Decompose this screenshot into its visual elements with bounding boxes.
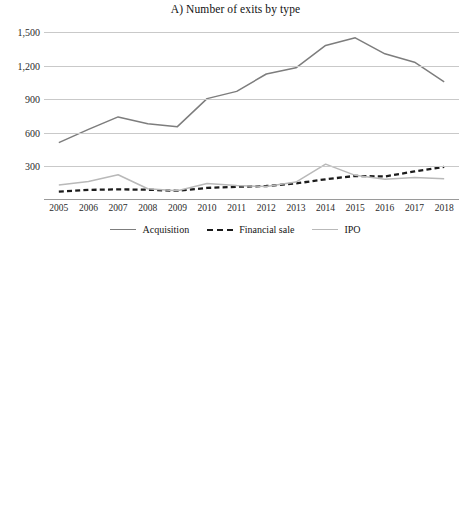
legend-item[interactable]: Acquisition [110, 224, 189, 235]
legend-line-swatch-icon [312, 229, 338, 230]
panel-a-y-axis: 3006009001,2001,500 [0, 32, 40, 200]
x-axis-tick-label: 2017 [400, 203, 430, 213]
x-axis-tick-label: 2007 [103, 203, 133, 213]
panel-a-x-axis-labels: 2005200620072008200920102011201220132014… [44, 203, 459, 213]
legend-line-swatch-icon [110, 229, 136, 230]
figure-root: A) Number of exits by type 3006009001,20… [0, 0, 471, 512]
x-axis-tick-label: 2012 [251, 203, 281, 213]
x-axis-tick-label: 2006 [74, 203, 104, 213]
gridline [44, 99, 459, 100]
panel-a-plot-area [44, 32, 459, 200]
y-axis-tick-label: 1,500 [18, 27, 41, 38]
panel-b-value-of-exits: B) Value of exits by type 30801301802302… [0, 256, 471, 512]
x-axis-tick-label: 2014 [311, 203, 341, 213]
panel-a-lines [44, 32, 459, 200]
x-axis-tick-label: 2011 [222, 203, 252, 213]
x-axis-tick-label: 2010 [192, 203, 222, 213]
legend-line-swatch-icon [207, 229, 233, 231]
x-axis-tick-label: 2009 [163, 203, 193, 213]
gridline [44, 166, 459, 167]
y-axis-tick-label: 1,200 [18, 60, 41, 71]
x-axis-tick-label: 2018 [429, 203, 459, 213]
legend-label: Acquisition [142, 224, 189, 235]
x-axis-tick-label: 2016 [370, 203, 400, 213]
panel-a-number-of-exits: A) Number of exits by type 3006009001,20… [0, 0, 471, 250]
legend-label: IPO [344, 224, 360, 235]
x-axis-tick-label: 2008 [133, 203, 163, 213]
panel-a-title: A) Number of exits by type [0, 3, 471, 15]
x-axis-line [44, 199, 459, 200]
y-axis-tick-label: 600 [25, 127, 40, 138]
line-series-acquisition [59, 38, 444, 143]
gridline [44, 66, 459, 67]
x-axis-tick-label: 2015 [340, 203, 370, 213]
y-axis-tick-label: 900 [25, 94, 40, 105]
legend-label: Financial sale [239, 224, 294, 235]
panel-a-legend: AcquisitionFinancial saleIPO [0, 224, 471, 235]
x-axis-tick-label: 2005 [44, 203, 74, 213]
legend-item[interactable]: IPO [312, 224, 360, 235]
y-axis-tick-label: 300 [25, 161, 40, 172]
x-axis-tick-label: 2013 [281, 203, 311, 213]
legend-item[interactable]: Financial sale [207, 224, 294, 235]
gridline [44, 133, 459, 134]
gridline [44, 32, 459, 33]
